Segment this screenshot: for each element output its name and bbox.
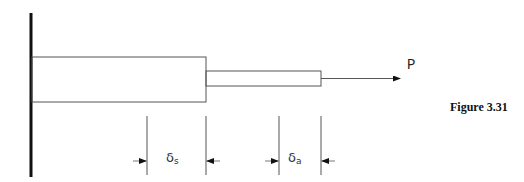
delta-a-label: δa [288, 150, 301, 166]
large-bar-segment [32, 57, 206, 102]
small-bar-segment [206, 71, 321, 86]
delta-symbol: δ [288, 150, 296, 165]
delta-subscript: a [296, 156, 302, 166]
delta-symbol: δ [166, 150, 174, 165]
delta-s-label: δs [166, 150, 179, 166]
load-label: P [407, 57, 415, 73]
figure-caption: Figure 3.31 [450, 100, 508, 115]
bar-diagram [0, 0, 524, 182]
delta-subscript: s [174, 156, 179, 166]
